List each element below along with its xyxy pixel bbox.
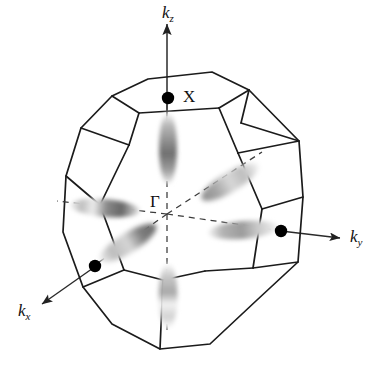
axis-label-ky: ky [350, 228, 362, 248]
zone-upper-left-facets [81, 113, 139, 205]
zone-upper-right-facets [219, 108, 299, 209]
x-point-top-dot [162, 92, 174, 104]
valley-ky-positive [207, 218, 278, 242]
conduction-valleys-group [69, 112, 278, 329]
zone-bottom-face [124, 268, 253, 349]
brillouin-zone-canvas [0, 0, 380, 371]
axis-label-kx: kx [18, 302, 30, 322]
valley-kx-positive [95, 217, 162, 269]
brillouin-zone-figure: kz ky kx Γ X [0, 0, 380, 371]
valley-ky-negative [69, 196, 140, 220]
x-point-label: X [183, 88, 195, 105]
axis-label-kz: kz [162, 4, 174, 24]
axis-ky-line [281, 231, 340, 238]
axis-label-kx-subscript: x [26, 310, 31, 322]
valley-kz-negative [159, 263, 178, 329]
zone-top-face [112, 90, 249, 113]
axis-label-kz-subscript: z [170, 12, 174, 24]
x-point-lower-left-dot [89, 260, 101, 272]
zone-depth-edges [241, 90, 299, 141]
valley-kx-negative [197, 156, 264, 207]
gamma-point-label: Γ [150, 193, 160, 210]
valley-kz-positive [159, 112, 177, 184]
x-point-right-dot [275, 225, 287, 237]
axis-label-ky-subscript: y [358, 236, 363, 248]
